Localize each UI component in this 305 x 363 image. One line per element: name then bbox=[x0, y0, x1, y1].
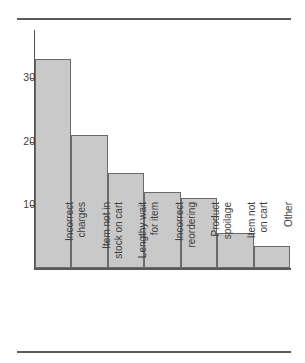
y-tick-label-30: 30 bbox=[9, 72, 35, 82]
y-tick-label-wrap: 20 bbox=[0, 142, 35, 143]
y-tick-label-wrap: 10 bbox=[0, 205, 35, 206]
x-label-3-line-2: for item bbox=[149, 202, 161, 274]
x-label-2-line-1: Item not in bbox=[101, 202, 113, 274]
x-label-7-line-1: Other bbox=[283, 202, 295, 274]
y-tick-label-20: 20 bbox=[9, 136, 35, 146]
x-label-4-line-2: reordering bbox=[185, 202, 197, 274]
y-tick-label-wrap: 30 bbox=[0, 78, 35, 79]
x-label-2: Item not instock on cart bbox=[101, 202, 124, 274]
x-label-7: Other bbox=[283, 202, 295, 274]
x-label-3-line-1: Lengthy wait bbox=[137, 202, 149, 274]
x-label-5: Productspoilage bbox=[210, 202, 233, 274]
figure: 102030 IncorrectchargesItem not instock … bbox=[0, 0, 305, 363]
x-label-5-line-2: spoilage bbox=[221, 202, 233, 274]
x-label-6-line-2: on cart bbox=[258, 202, 270, 274]
x-label-2-line-2: stock on cart bbox=[112, 202, 124, 274]
x-label-1-line-1: Incorrect bbox=[64, 202, 76, 274]
x-label-1: Incorrectcharges bbox=[64, 202, 87, 274]
bar-chart-plot: 102030 IncorrectchargesItem not instock … bbox=[0, 0, 305, 363]
x-label-4-line-1: Incorrect bbox=[174, 202, 186, 274]
x-label-6: Item noton cart bbox=[246, 202, 269, 274]
y-tick-label-10: 10 bbox=[9, 199, 35, 209]
x-label-3: Lengthy waitfor item bbox=[137, 202, 160, 274]
x-label-4: Incorrectreordering bbox=[174, 202, 197, 274]
x-label-1-line-2: charges bbox=[76, 202, 88, 274]
x-label-5-line-1: Product bbox=[210, 202, 222, 274]
x-label-6-line-1: Item not bbox=[246, 202, 258, 274]
